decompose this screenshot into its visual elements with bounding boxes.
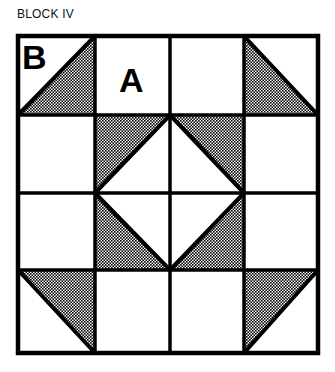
quilt-block-diagram: [0, 0, 335, 372]
label-a: A: [119, 63, 144, 97]
label-b: B: [22, 40, 47, 74]
